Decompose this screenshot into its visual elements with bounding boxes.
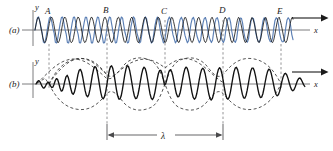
- point-label-A: A: [44, 6, 51, 16]
- panel-b: (b) y x: [9, 56, 329, 110]
- point-label-B: B: [103, 5, 109, 15]
- wavelength-arrowhead-left: [108, 132, 115, 138]
- wavelength-measure: λ: [107, 124, 223, 142]
- wavelength-label-backing: [157, 128, 175, 142]
- panel-b-label: (b): [9, 79, 20, 89]
- panel-a-y-axis-label: y: [34, 2, 39, 12]
- wavelength-arrowhead-right: [216, 132, 223, 138]
- panel-b-direction-arrow: [292, 69, 329, 76]
- point-label-D: D: [218, 5, 226, 15]
- point-label-E: E: [276, 6, 283, 16]
- panel-b-y-axis-label: y: [34, 56, 39, 66]
- envelope-lower: [49, 84, 281, 110]
- marker-guides: [49, 20, 281, 124]
- wavelength-label: λ: [160, 131, 165, 141]
- panel-a-label: (a): [9, 25, 20, 35]
- panel-a: (a) y x A B C D E: [9, 2, 329, 46]
- panel-a-x-axis-label: x: [313, 25, 318, 35]
- figure-canvas: (a) y x A B C D E: [0, 0, 333, 151]
- panel-b-x-axis-label: x: [313, 79, 318, 89]
- beats-figure: (a) y x A B C D E: [0, 0, 333, 151]
- panel-a-direction-arrow: [292, 15, 329, 22]
- point-label-C: C: [161, 6, 168, 16]
